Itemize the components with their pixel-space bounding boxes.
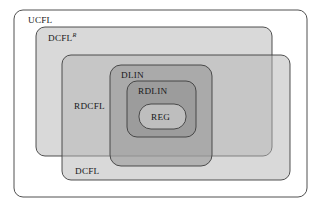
- diagram-canvas: UCFL DCFLR RDCFL DLIN RDLIN REG DCFL: [0, 0, 321, 208]
- inclusion-diagram: UCFL DCFLR RDCFL DLIN RDLIN REG DCFL: [0, 0, 321, 208]
- region-label-dcfl-r: DCFLR: [48, 31, 77, 43]
- region-label-rdlin: RDLIN: [138, 86, 167, 96]
- region-label-reg: REG: [151, 112, 170, 122]
- region-label-dcfl-r-superscript: R: [72, 31, 77, 38]
- region-label-dlin: DLIN: [121, 70, 144, 80]
- region-label-dcfl: DCFL: [75, 166, 100, 176]
- region-label-dcfl-r-text: DCFL: [48, 33, 73, 43]
- region-label-rdcfl: RDCFL: [74, 101, 105, 111]
- region-label-ucfl: UCFL: [28, 15, 53, 25]
